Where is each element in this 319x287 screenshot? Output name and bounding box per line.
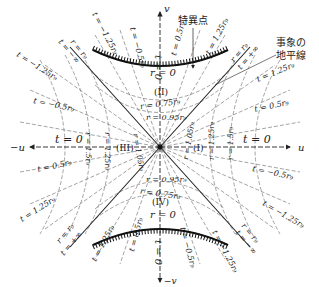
kruskal-diagram: u −u v −v 特異点 事象の 地平線 (II) (IV) (I) (III… bbox=[0, 0, 319, 287]
t-label-top-far-right: t = 1.25r₉ bbox=[255, 60, 296, 84]
r-125-right-label: r = 1.25r₉ bbox=[207, 122, 216, 160]
horizon-annotation-line1: 事象の bbox=[276, 36, 306, 48]
t0-left-label: t = 0 bbox=[55, 133, 83, 146]
region-i-label: (I) bbox=[193, 143, 204, 153]
r-15-left-label: r = 1.5r₉ bbox=[84, 132, 93, 165]
t0-bottom-label: t = 0 bbox=[153, 240, 164, 266]
t-label-left-upper: t = −0.5r₉ bbox=[33, 96, 76, 114]
neg-u-label: −u bbox=[10, 142, 25, 153]
neg-v-label: −v bbox=[164, 276, 177, 286]
region-iii-label: (III) bbox=[116, 143, 134, 153]
t-label-bottom-far-right: t = −1.25r₉ bbox=[261, 199, 307, 230]
t-label-right-upper: t = 0.5r₉ bbox=[254, 98, 291, 114]
t0-right-label: t = 0 bbox=[243, 133, 271, 146]
t-label-bottom-far-left: t = 1.25r₉ bbox=[18, 195, 57, 224]
r-15-right-label: r = 1.5r₉ bbox=[226, 127, 235, 160]
horizon-annotation-line2: 地平線 bbox=[276, 49, 306, 61]
r-125-left-label: r = 1.25r₉ bbox=[103, 132, 112, 170]
r-095-bottom-label: r = 0.95r₉ bbox=[146, 175, 187, 184]
v-label: v bbox=[164, 3, 170, 14]
region-ii-label: (II) bbox=[154, 87, 168, 97]
origin-dot bbox=[158, 145, 163, 150]
t0-top-label: t = 0 bbox=[153, 55, 164, 81]
u-label: u bbox=[298, 142, 304, 153]
t-label-bottom-left-lower: t = 1.25r₉ bbox=[90, 223, 117, 263]
t-label-right-lower: t = −0.5r₉ bbox=[252, 164, 295, 182]
r-095-top-label: r = 0.95r₉ bbox=[146, 113, 187, 122]
diagram-canvas: u −u v −v 特異点 事象の 地平線 (II) (IV) (I) (III… bbox=[0, 0, 319, 287]
t-label-top-right-inner: t = 0.5r₉ bbox=[169, 20, 187, 57]
t-label-left-lower: t = 0.5r₉ bbox=[37, 158, 74, 174]
t-label-top-far-left: t = −1.25r₉ bbox=[15, 50, 60, 83]
r0-bottom-label: r = 0 bbox=[150, 209, 177, 220]
